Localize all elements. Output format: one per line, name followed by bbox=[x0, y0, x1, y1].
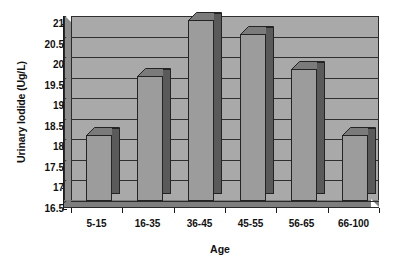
bar-front-face bbox=[137, 76, 163, 201]
y-axis-tick-label: 19 bbox=[24, 101, 64, 111]
x-axis-tick-mark bbox=[328, 208, 329, 213]
bar-front-face bbox=[188, 20, 214, 201]
y-axis-tick-label: 17 bbox=[24, 183, 64, 193]
bar-side-face bbox=[163, 69, 171, 194]
x-axis-title: Age bbox=[60, 243, 380, 255]
y-axis-tick-label: 19.5 bbox=[24, 81, 64, 91]
x-axis-tick-mark bbox=[379, 208, 380, 213]
bar-side-face bbox=[266, 27, 274, 194]
y-axis-tick-label: 18.5 bbox=[24, 122, 64, 132]
y-axis-tick-label: 17.5 bbox=[24, 163, 64, 173]
bar-front-face bbox=[86, 135, 112, 201]
bar-chart: Urinary Iodide (Ug/L) 2120.52019.51918.5… bbox=[0, 0, 399, 269]
y-axis-tick-label: 21 bbox=[24, 19, 64, 29]
x-axis-ticks bbox=[64, 208, 379, 214]
y-axis-tick-label: 18 bbox=[24, 142, 64, 152]
bar bbox=[188, 12, 222, 201]
bar-front-face bbox=[291, 69, 317, 201]
bar bbox=[86, 127, 120, 201]
bar-front-face bbox=[342, 135, 368, 201]
x-axis-tick-label: 36-45 bbox=[174, 218, 225, 229]
bar-side-face bbox=[112, 128, 120, 194]
x-axis-tick-labels: 5-1516-3536-4545-5556-6566-100 bbox=[71, 218, 379, 234]
x-axis-tick-label: 66-100 bbox=[328, 218, 379, 229]
y-axis-tick-label: 16.5 bbox=[24, 204, 64, 214]
x-axis-tick-label: 56-65 bbox=[276, 218, 327, 229]
bar bbox=[342, 127, 376, 201]
bar bbox=[291, 61, 325, 201]
x-axis-tick-mark bbox=[225, 208, 226, 213]
y-axis-ticks: 2120.52019.51918.51817.51716.5 bbox=[18, 16, 64, 208]
x-axis-tick-mark bbox=[276, 208, 277, 213]
bars-layer bbox=[71, 16, 379, 201]
y-axis-tick-label: 20.5 bbox=[24, 40, 64, 50]
x-axis-tick-label: 45-55 bbox=[225, 218, 276, 229]
bar-side-face bbox=[368, 128, 376, 194]
x-axis-tick-mark bbox=[71, 208, 72, 213]
bar-side-face bbox=[317, 62, 325, 194]
gridline bbox=[71, 201, 379, 202]
x-axis-tick-label: 5-15 bbox=[71, 218, 122, 229]
bar bbox=[137, 68, 171, 201]
x-axis-tick-mark bbox=[122, 208, 123, 213]
x-axis-tick-mark bbox=[174, 208, 175, 213]
y-axis-tick-label: 20 bbox=[24, 60, 64, 70]
x-axis-tick-label: 16-35 bbox=[122, 218, 173, 229]
bar-front-face bbox=[240, 34, 266, 201]
bar bbox=[240, 26, 274, 201]
bar-side-face bbox=[214, 13, 222, 194]
